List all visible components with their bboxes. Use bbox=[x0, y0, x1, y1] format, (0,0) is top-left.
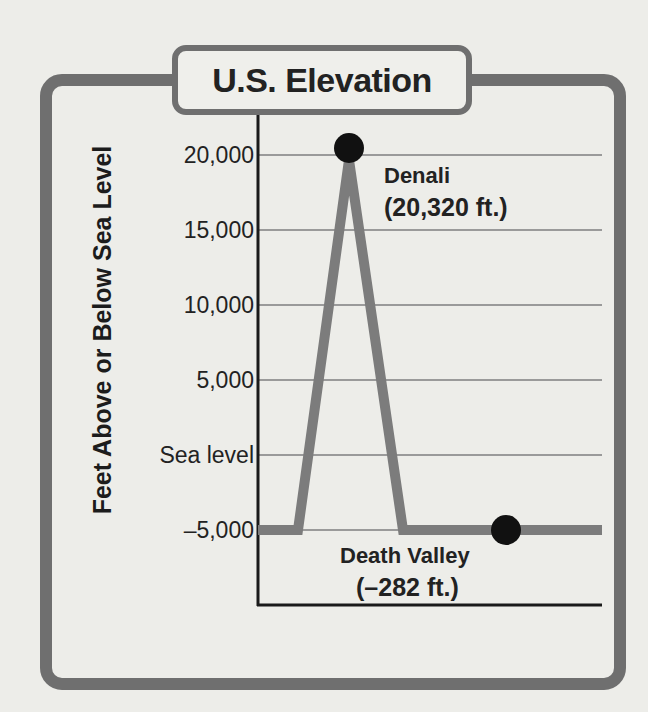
denali-marker bbox=[334, 133, 364, 163]
death-valley-marker bbox=[491, 515, 521, 545]
denali-label: Denali bbox=[384, 163, 450, 189]
death-valley-label: Death Valley bbox=[340, 543, 470, 569]
plot-area bbox=[0, 0, 648, 712]
death-valley-value: (–282 ft.) bbox=[356, 573, 459, 602]
denali-value: (20,320 ft.) bbox=[384, 193, 508, 222]
